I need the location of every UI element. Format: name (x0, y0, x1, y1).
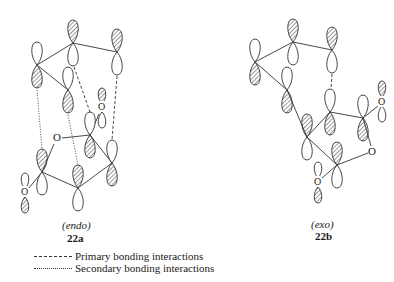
caption-endo: (endo) (62, 219, 91, 231)
oxygen-orbital (378, 81, 386, 97)
oxygen-orbital (314, 187, 322, 203)
p-orbital (282, 67, 293, 113)
compound-label-22a: 22a (67, 232, 84, 244)
legend-secondary-label: Secondary bonding interactions (75, 262, 214, 274)
oxygen-label: O (21, 186, 28, 197)
oxygen-label: O (368, 145, 376, 157)
oxygen-orbital (98, 112, 106, 128)
primary-interactions-22b (331, 74, 332, 89)
p-orbital (32, 42, 43, 88)
oxygen-label: O (53, 131, 61, 143)
legend-primary-label: Primary bonding interactions (75, 250, 203, 262)
compound-label-22b: 22b (315, 230, 332, 242)
p-orbital (358, 95, 369, 141)
dashed-line-swatch (34, 256, 72, 257)
structure-22a-endo (21, 20, 122, 213)
p-orbital (327, 27, 338, 73)
oxygen-label: O (314, 176, 321, 187)
p-orbital (68, 20, 79, 66)
primary-interactions-22a (74, 67, 117, 140)
p-orbital (107, 140, 118, 186)
p-orbital (250, 39, 261, 85)
oxygen-orbital (21, 197, 29, 213)
p-orbital (302, 114, 313, 160)
p-orbital (288, 19, 299, 65)
dotted-line-swatch (34, 268, 72, 269)
legend-primary: Primary bonding interactions (34, 250, 203, 262)
p-orbital (73, 165, 84, 211)
p-orbital (325, 89, 336, 135)
p-orbital (112, 29, 123, 75)
oxygen-orbital (378, 106, 386, 122)
p-orbital (37, 149, 48, 195)
p-orbital (332, 142, 343, 188)
caption-exo: (exo) (311, 218, 334, 230)
legend-secondary: Secondary bonding interactions (34, 262, 214, 274)
oxygen-label: O (378, 96, 385, 107)
oxygen-label: O (98, 101, 105, 112)
p-orbital (63, 67, 74, 113)
